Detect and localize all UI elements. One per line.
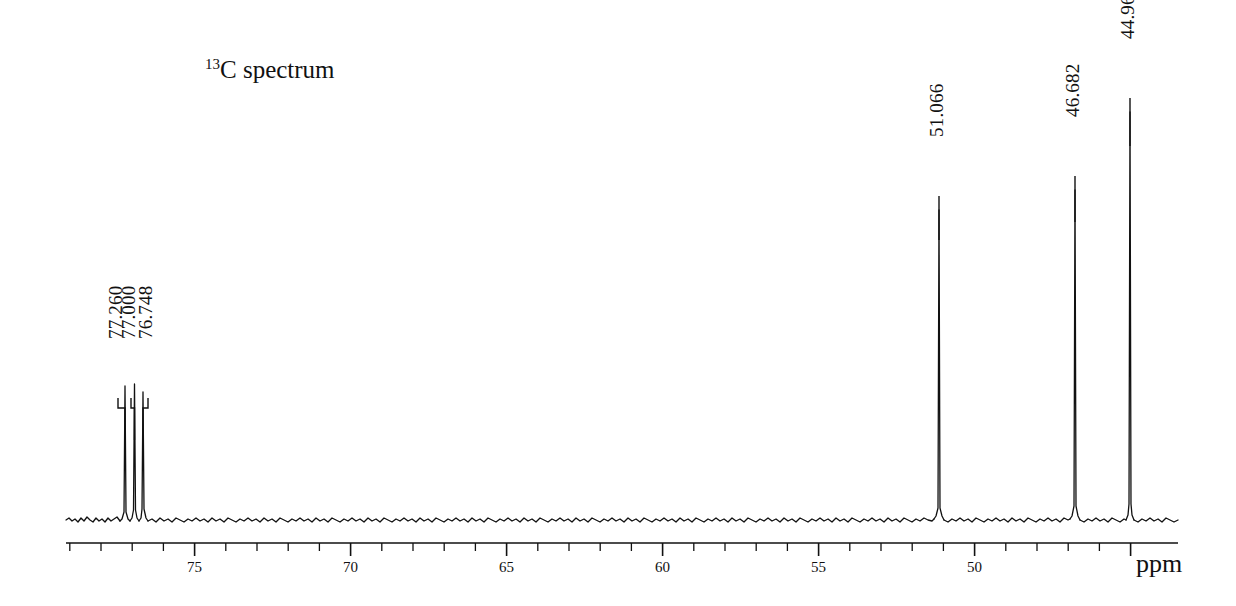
x-axis-major-ticks (195, 543, 1131, 556)
axis-tick-label-75: 75 (187, 560, 202, 575)
axis-tick-label-50: 50 (967, 560, 982, 575)
axis-tick-label-65: 65 (499, 560, 514, 575)
peak-77260 (120, 386, 130, 521)
axis-tick-label-60: 60 (655, 560, 670, 575)
spectrum-plot (0, 0, 1236, 606)
nmr-spectrum-figure: 13C spectrum (0, 0, 1236, 606)
peak-44964 (1126, 112, 1134, 520)
baseline-middle (148, 518, 934, 522)
peak-leader-lines (118, 98, 1130, 440)
peak-label-44964: 44.964 (1118, 0, 1137, 39)
peak-label-46682: 46.682 (1063, 64, 1082, 117)
axis-tick-label-70: 70 (343, 560, 358, 575)
peak-label-76748: 76.748 (136, 286, 155, 339)
baseline-between-47-45 (1080, 518, 1126, 522)
axis-unit-label: ppm (1136, 551, 1182, 577)
peak-46682 (1070, 190, 1080, 520)
peak-76748 (139, 392, 148, 521)
baseline-between-51-47 (944, 518, 1070, 522)
baseline-right (1134, 518, 1178, 522)
spectrum-trace (66, 112, 1178, 522)
x-axis-minor-ticks (70, 543, 1100, 551)
peak-51066 (934, 210, 944, 520)
baseline-left (66, 517, 120, 522)
axis-tick-label-55: 55 (811, 560, 826, 575)
leader-line-77260 (118, 398, 125, 440)
peak-label-51066: 51.066 (927, 84, 946, 137)
